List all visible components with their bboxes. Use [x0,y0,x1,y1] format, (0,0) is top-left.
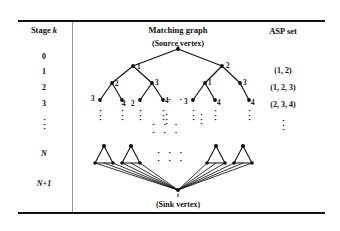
node-label-l2-left-a: 2 [115,81,119,88]
node-label-l2-right-a: 1 [208,80,212,87]
leaf-label-right-2: 4 [217,100,221,107]
sink-vertex-label: t [177,192,179,199]
level-n-horizontal-ellipsis-2: · · · [157,158,186,163]
leaf-ellipsis-1: ··· [99,108,102,122]
matching-graph-figure: Stage k Matching graph ASP set (Source v… [0,0,340,231]
leaf-label-left-3: 2 [131,101,135,108]
leaf-ellipsis-2: ··· [121,108,124,122]
leaf-ellipsis-5: ··· [192,108,195,122]
leaf-label-right-3: 4 [251,100,255,107]
tree-horizontal-ellipsis-mid-2: · · · [152,130,181,135]
leaf-ellipsis-6: ··· [214,108,217,122]
leaf-ellipsis-3: ··· [139,108,142,122]
node-label-l1-left: 1 [137,64,141,71]
node-label-l2-right-b: 3 [243,80,247,87]
leaf-ellipsis-7: ··· [248,108,251,122]
node-label-l1-right: 2 [226,63,230,70]
matching-graph-drawing [0,0,340,231]
source-vertex-label: s [177,43,180,50]
gap-ellipsis-left: ··· [165,112,168,126]
node-label-l2-left-b: 3 [155,80,159,87]
gap-ellipsis-right: ··· [200,112,203,126]
leaf-label-left-1: 3 [91,96,95,103]
tree-horizontal-ellipsis-upper: · · · [168,97,197,102]
